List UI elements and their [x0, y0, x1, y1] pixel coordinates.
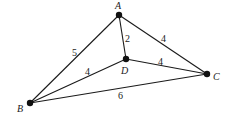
node-d	[123, 56, 129, 62]
node-b	[27, 100, 33, 106]
weight-d-c: 4	[158, 56, 163, 67]
edge-b-d	[30, 59, 126, 103]
weight-a-b: 5	[72, 47, 77, 58]
weight-b-d: 4	[85, 66, 90, 77]
node-label-d: D	[120, 65, 129, 76]
graph-diagram: A B C D 5 2 4 4 4 6	[0, 0, 228, 123]
edge-a-c	[119, 15, 207, 74]
node-label-c: C	[213, 71, 220, 82]
weight-a-c: 4	[161, 33, 166, 44]
node-label-a: A	[114, 0, 122, 11]
weight-b-c: 6	[118, 90, 123, 101]
node-label-b: B	[17, 103, 23, 114]
weight-a-d: 2	[125, 33, 130, 44]
edge-a-b	[30, 15, 119, 103]
node-c	[204, 71, 210, 77]
node-a	[116, 12, 122, 18]
